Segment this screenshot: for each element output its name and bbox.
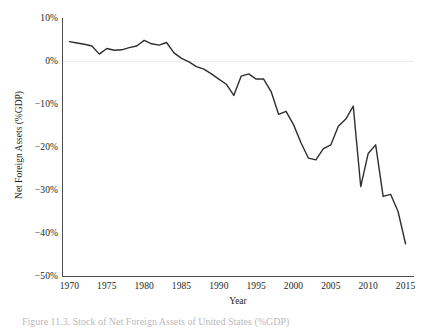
x-tick-label: 2005 bbox=[311, 281, 351, 292]
x-tick-label: 2010 bbox=[348, 281, 388, 292]
x-tick-label: 1990 bbox=[199, 281, 239, 292]
y-axis-title: Net Foreign Assets (%GDP) bbox=[14, 65, 24, 225]
x-tick-label: 2000 bbox=[274, 281, 314, 292]
x-axis-title: Year bbox=[62, 296, 414, 306]
x-tick-label: 1980 bbox=[124, 281, 164, 292]
x-tick-label: 1975 bbox=[87, 281, 127, 292]
x-tick-label: 1995 bbox=[236, 281, 276, 292]
x-tick-label: 2015 bbox=[386, 281, 426, 292]
x-tick-label: 1970 bbox=[49, 281, 89, 292]
figure-caption: Figure 11.3. Stock of Net Foreign Assets… bbox=[22, 316, 422, 328]
x-tick-label: 1985 bbox=[161, 281, 201, 292]
